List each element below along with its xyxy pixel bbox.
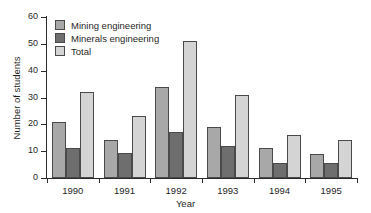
legend-swatch-icon (55, 46, 65, 56)
legend-label: Minerals engineering (71, 33, 159, 44)
bar (118, 153, 132, 178)
bar (80, 92, 94, 178)
y-tick-mark (41, 17, 46, 18)
chart-legend: Mining engineeringMinerals engineeringTo… (55, 19, 159, 58)
x-tick-mark (202, 179, 203, 183)
x-tick-label: 1991 (102, 186, 148, 196)
bar-chart: 0102030405060 199019911992199319941995 M… (0, 0, 371, 213)
legend-item: Minerals engineering (55, 32, 159, 44)
y-tick-label: 0 (8, 173, 38, 182)
bar (287, 135, 301, 178)
x-tick-label: 1993 (205, 186, 251, 196)
legend-swatch-icon (55, 33, 65, 43)
x-tick-label: 1992 (153, 186, 199, 196)
bar (52, 122, 66, 178)
legend-label: Total (71, 46, 91, 57)
y-tick-mark (41, 98, 46, 99)
x-tick-mark (357, 179, 358, 183)
bar (155, 87, 169, 178)
x-tick-label: 1994 (257, 186, 303, 196)
legend-label: Mining engineering (71, 20, 151, 31)
bar (132, 116, 146, 178)
bar (259, 148, 273, 178)
legend-item: Mining engineering (55, 19, 159, 31)
x-tick-mark (47, 179, 48, 183)
y-tick-mark (41, 44, 46, 45)
bar (104, 140, 118, 178)
bar (221, 146, 235, 178)
x-tick-label: 1995 (308, 186, 354, 196)
x-tick-mark (150, 179, 151, 183)
bar (169, 132, 183, 178)
y-axis-title: Number of students (12, 33, 22, 163)
legend-swatch-icon (55, 20, 65, 30)
y-tick-mark (41, 178, 46, 179)
bar (183, 41, 197, 178)
y-tick-label: 60 (8, 12, 38, 21)
bar (66, 148, 80, 178)
bar (273, 163, 287, 178)
bar (324, 163, 338, 178)
bar (207, 127, 221, 178)
x-tick-mark (254, 179, 255, 183)
bar (310, 154, 324, 178)
x-tick-label: 1990 (50, 186, 96, 196)
x-axis-title: Year (0, 199, 371, 209)
x-tick-mark (99, 179, 100, 183)
y-tick-mark (41, 71, 46, 72)
bar (235, 95, 249, 178)
bar (338, 140, 352, 178)
y-tick-mark (41, 151, 46, 152)
legend-item: Total (55, 45, 159, 57)
x-tick-mark (305, 179, 306, 183)
y-tick-mark (41, 124, 46, 125)
